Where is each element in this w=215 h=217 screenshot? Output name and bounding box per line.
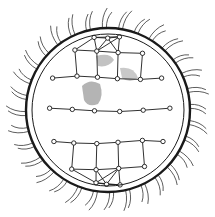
mesh-node <box>168 106 172 110</box>
mesh-node <box>95 49 99 53</box>
mesh-node <box>106 36 110 40</box>
mesh-node <box>117 166 121 170</box>
mesh-node <box>95 141 99 145</box>
mesh-node <box>72 141 76 145</box>
mesh-node <box>52 139 56 143</box>
mesh-node <box>161 139 165 143</box>
mesh-node <box>115 77 119 81</box>
mesh-node <box>92 109 96 113</box>
continent-shade <box>96 55 114 67</box>
mesh-node <box>116 50 120 54</box>
mesh-node <box>75 74 79 78</box>
mesh-node <box>141 108 145 112</box>
mesh-node <box>142 164 146 168</box>
illustration-canvas <box>0 0 215 217</box>
mesh-node <box>118 109 122 113</box>
mesh-node <box>47 106 51 110</box>
mesh-node <box>138 77 142 81</box>
mesh-node <box>50 76 54 80</box>
mesh-node <box>94 168 98 172</box>
continent-shade <box>82 81 102 105</box>
mesh-node <box>70 167 74 171</box>
mesh-node <box>73 48 77 52</box>
mesh-node <box>159 76 163 80</box>
mesh-node <box>95 75 99 79</box>
mesh-node <box>116 140 120 144</box>
mesh-node <box>70 107 74 111</box>
mesh-node <box>140 51 144 55</box>
mesh-node <box>140 138 144 142</box>
network-globe-illustration <box>0 0 215 217</box>
